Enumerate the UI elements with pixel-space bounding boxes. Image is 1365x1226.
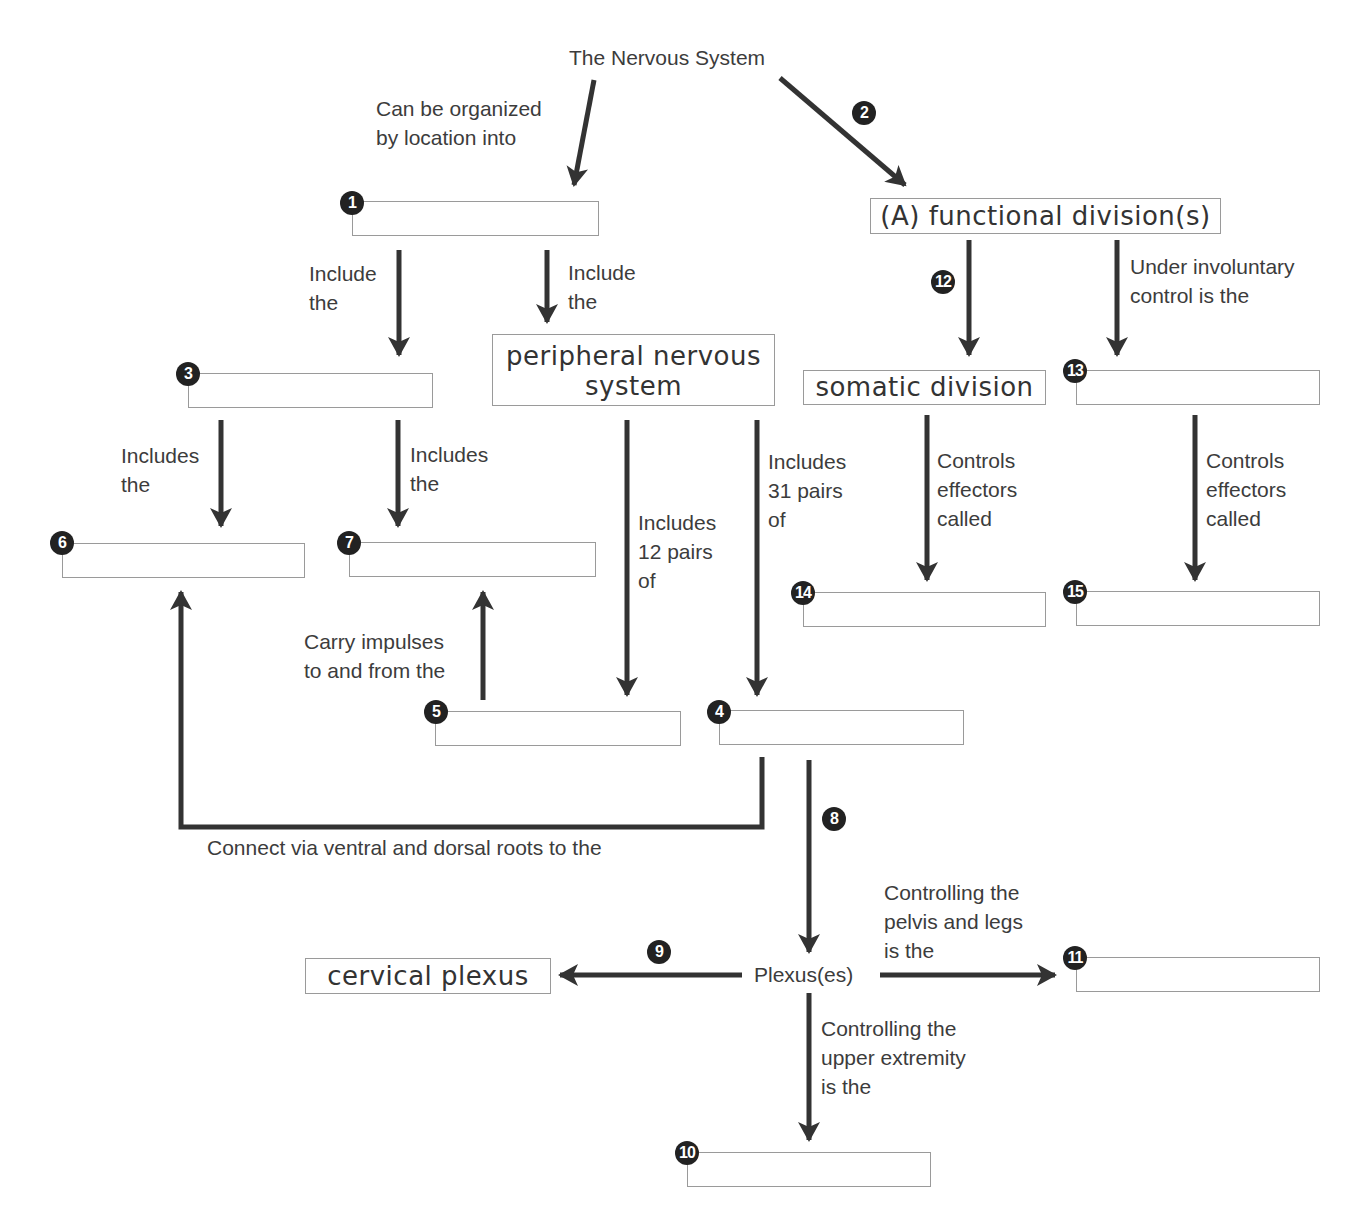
- include-right-line1: Include: [568, 258, 636, 287]
- number-badge-9: 9: [647, 940, 671, 964]
- number-badge-13: 13: [1063, 359, 1087, 383]
- include-left-line1: Include: [309, 259, 377, 288]
- upper-line2: upper extremity: [821, 1043, 966, 1072]
- number-badge-6: 6: [50, 531, 74, 555]
- somatic-division-box: somatic division: [803, 370, 1046, 405]
- number-badge-7: 7: [337, 531, 361, 555]
- number-badge-1: 1: [340, 191, 364, 215]
- includes-7-line1: Includes: [410, 440, 488, 469]
- pns-box: peripheral nervous system: [492, 334, 775, 406]
- answer-box-6[interactable]: [62, 543, 305, 578]
- answer-box-1[interactable]: [352, 201, 599, 236]
- answer-box-14[interactable]: [803, 592, 1046, 627]
- involuntary-line1: Under involuntary: [1130, 252, 1295, 281]
- effectors15-line1: Controls: [1206, 446, 1284, 475]
- organized-label-line2: by location into: [376, 123, 516, 152]
- involuntary-line2: control is the: [1130, 281, 1249, 310]
- answer-box-10[interactable]: [687, 1152, 931, 1187]
- pairs31-line3: of: [768, 505, 786, 534]
- number-badge-12: 12: [931, 270, 955, 294]
- effectors14-line3: called: [937, 504, 992, 533]
- effectors14-line1: Controls: [937, 446, 1015, 475]
- number-badge-11: 11: [1063, 946, 1087, 970]
- number-badge-10: 10: [675, 1141, 699, 1165]
- answer-box-3[interactable]: [188, 373, 433, 408]
- root-node-label: The Nervous System: [569, 43, 765, 72]
- includes-6-line1: Includes: [121, 441, 199, 470]
- carry-line1: Carry impulses: [304, 627, 444, 656]
- connect-label: Connect via ventral and dorsal roots to …: [207, 833, 602, 862]
- answer-box-4[interactable]: [719, 710, 964, 745]
- number-badge-15: 15: [1063, 580, 1087, 604]
- number-badge-2: 2: [852, 101, 876, 125]
- answer-box-13[interactable]: [1076, 370, 1320, 405]
- number-badge-4: 4: [707, 700, 731, 724]
- number-badge-5: 5: [424, 700, 448, 724]
- carry-line2: to and from the: [304, 656, 445, 685]
- pairs12-line1: Includes: [638, 508, 716, 537]
- includes-7-line2: the: [410, 469, 439, 498]
- pelvis-line1: Controlling the: [884, 878, 1019, 907]
- pairs31-line2: 31 pairs: [768, 476, 843, 505]
- pairs12-line3: of: [638, 566, 656, 595]
- number-badge-3: 3: [176, 362, 200, 386]
- pairs31-line1: Includes: [768, 447, 846, 476]
- pairs12-line2: 12 pairs: [638, 537, 713, 566]
- number-badge-8: 8: [822, 807, 846, 831]
- organized-label-line1: Can be organized: [376, 94, 542, 123]
- number-badge-14: 14: [791, 581, 815, 605]
- pns-box-line1: peripheral nervous: [493, 341, 774, 371]
- answer-box-11[interactable]: [1076, 957, 1320, 992]
- include-left-line2: the: [309, 288, 338, 317]
- include-right-line2: the: [568, 287, 597, 316]
- answer-box-15[interactable]: [1076, 591, 1320, 626]
- pelvis-line2: pelvis and legs: [884, 907, 1023, 936]
- functional-divisions-box: (A) functional division(s): [870, 198, 1221, 234]
- cervical-plexus-box: cervical plexus: [305, 958, 551, 994]
- pelvis-line3: is the: [884, 936, 934, 965]
- answer-box-7[interactable]: [349, 542, 596, 577]
- answer-box-5[interactable]: [435, 711, 681, 746]
- pns-box-line2: system: [493, 371, 774, 401]
- effectors15-line2: effectors: [1206, 475, 1286, 504]
- effectors15-line3: called: [1206, 504, 1261, 533]
- upper-line1: Controlling the: [821, 1014, 956, 1043]
- upper-line3: is the: [821, 1072, 871, 1101]
- includes-6-line2: the: [121, 470, 150, 499]
- plexus-node-label: Plexus(es): [754, 960, 853, 989]
- effectors14-line2: effectors: [937, 475, 1017, 504]
